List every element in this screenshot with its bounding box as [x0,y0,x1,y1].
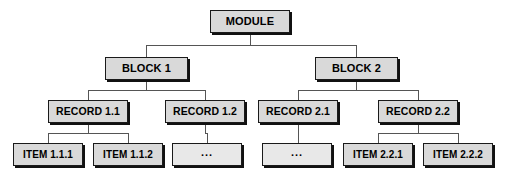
node-module[interactable]: MODULE [210,10,290,33]
node-record22[interactable]: RECORD 2.2 [378,100,458,123]
node-label: RECORD 1.2 [173,106,237,117]
node-label: RECORD 1.1 [56,106,120,117]
node-item222[interactable]: ITEM 2.2.2 [423,143,493,166]
node-label: RECORD 2.1 [266,106,330,117]
node-label: RECORD 2.2 [386,106,450,117]
node-block2[interactable]: BLOCK 2 [315,57,398,80]
node-label: ITEM 2.2.2 [433,149,483,159]
node-item112[interactable]: ITEM 1.1.2 [93,143,163,166]
node-label: ... [201,147,213,158]
node-record21[interactable]: RECORD 2.1 [258,100,338,123]
node-label: BLOCK 2 [332,63,381,74]
node-ellipsis1[interactable]: ... [172,143,242,166]
node-record11[interactable]: RECORD 1.1 [48,100,128,123]
node-record12[interactable]: RECORD 1.2 [165,100,245,123]
node-label: ITEM 2.2.1 [353,149,403,159]
node-item111[interactable]: ITEM 1.1.1 [13,143,83,166]
node-label: ITEM 1.1.1 [23,149,73,159]
node-ellipsis2[interactable]: ... [262,143,332,166]
node-label: ... [291,147,303,158]
node-item221[interactable]: ITEM 2.2.1 [343,143,413,166]
node-block1[interactable]: BLOCK 1 [105,57,188,80]
node-label: ITEM 1.1.2 [103,149,153,159]
node-label: MODULE [226,16,274,27]
node-label: BLOCK 1 [122,63,171,74]
hierarchy-diagram: MODULEBLOCK 1BLOCK 2RECORD 1.1RECORD 1.2… [0,0,506,176]
